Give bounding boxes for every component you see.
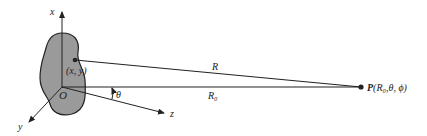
source-point-label: (x, y) — [66, 65, 87, 77]
r0-label: R₀ — [207, 90, 218, 101]
x-axis-label: x — [49, 6, 55, 17]
r-label: R — [211, 61, 218, 72]
theta-label: θ — [116, 89, 121, 100]
z-axis-label: z — [169, 108, 174, 119]
theta-arc — [112, 88, 113, 99]
source-point-dot — [73, 58, 78, 63]
observation-point-label: P(R₀,θ, ϕ) — [367, 82, 408, 94]
diagram-canvas: x y z O (x, y) θ R R₀ P(R₀,θ, ϕ) — [0, 0, 427, 136]
y-axis-label: y — [17, 121, 23, 132]
origin-label: O — [59, 89, 67, 101]
observation-point-dot — [358, 84, 363, 89]
